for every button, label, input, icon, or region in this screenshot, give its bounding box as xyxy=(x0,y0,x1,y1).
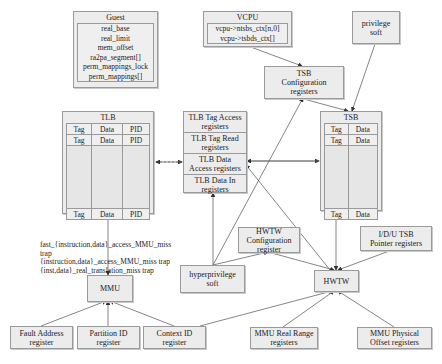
tlb-cell xyxy=(123,146,150,209)
idu-tsb-pointer-registers-node: I/D/U TSB Pointer registers xyxy=(360,226,432,251)
tlb-cell: Data xyxy=(91,209,122,220)
tlb-table: TLB TagDataPID TagDataPID TagDataPID xyxy=(62,111,154,214)
tsb-cell: Data xyxy=(348,124,377,135)
node-label: registers xyxy=(270,338,297,347)
tlb-tag-read-registers: TLB Tag Readregisters xyxy=(184,133,246,154)
guest-field: real_limit xyxy=(78,34,153,44)
fault-address-register-node: Fault Address register xyxy=(10,326,73,349)
tlb-tag-access-registers: TLB Tag Accessregisters xyxy=(184,112,246,133)
tlb-data-access-registers: TLB DataAccess registers xyxy=(184,154,246,175)
trap-list: fast_{instruction,data}_access_MMU_miss … xyxy=(40,241,240,275)
node-label: I/D/U TSB xyxy=(378,230,413,239)
vcpu-field: vcpu->ntsbs_ctx[n,0] xyxy=(208,24,287,34)
tsb-table: TSB TagData TagData TagData xyxy=(320,111,382,211)
node-label: MMU Physical xyxy=(370,329,419,338)
tlb-cell: Data xyxy=(91,124,122,135)
node-label: Offset registers xyxy=(370,338,419,347)
node-label: register xyxy=(257,245,281,254)
vcpu-title: VCPU xyxy=(204,12,291,23)
tsb-entries: TagData TagData TagData xyxy=(324,123,378,220)
guest-struct: Guest real_base real_limit mem_offset ra… xyxy=(73,11,158,88)
tsb-title: TSB xyxy=(321,112,381,123)
tlb-cell: PID xyxy=(123,124,150,135)
tsb-cell: Data xyxy=(348,135,377,146)
privilege-soft-node: privilege soft xyxy=(352,11,400,44)
node-label: soft xyxy=(207,279,219,288)
node-label: HWTW xyxy=(324,277,350,286)
node-label: Partition ID xyxy=(90,329,128,338)
partition-id-register-node: Partition ID register xyxy=(77,326,140,349)
vcpu-struct: VCPU vcpu->ntsbs_ctx[n,0] vcpu->tsbds_ct… xyxy=(203,11,292,47)
table-row: TagDataPID xyxy=(67,209,150,220)
table-row: TagData xyxy=(325,209,378,220)
table-row-ellipsis xyxy=(67,146,150,209)
node-label: registers xyxy=(290,87,317,96)
tlb-cell: PID xyxy=(123,135,150,146)
node-label: register xyxy=(97,338,121,347)
table-row-ellipsis xyxy=(325,146,378,209)
node-label: HWTW xyxy=(256,227,282,236)
guest-field: real_base xyxy=(78,24,153,34)
table-row: TagDataPID xyxy=(67,135,150,146)
tlb-cell: Tag xyxy=(67,209,92,220)
node-label: TSB xyxy=(297,69,312,78)
tsb-cell: Tag xyxy=(325,209,349,220)
hwtw-node: HWTW xyxy=(314,270,359,292)
trap-label: {inst,data}_real_translation_miss trap xyxy=(40,267,240,276)
trap-label: fast_{instruction,data}_access_MMU_miss xyxy=(40,241,240,250)
guest-field: perm_mappings_lock xyxy=(78,62,153,72)
tlb-register-stack: TLB Tag Accessregisters TLB Tag Readregi… xyxy=(183,111,247,193)
node-label: register xyxy=(30,338,54,347)
node-label: privilege xyxy=(362,19,390,28)
tlb-cell: Tag xyxy=(67,124,92,135)
node-label: soft xyxy=(370,28,382,37)
guest-field: mem_offset xyxy=(78,43,153,53)
guest-title: Guest xyxy=(74,12,157,23)
tsb-cell xyxy=(348,146,377,209)
guest-field: perm_mappings[] xyxy=(78,72,153,82)
node-label: Context ID xyxy=(157,329,193,338)
mmu-physical-offset-registers-node: MMU Physical Offset registers xyxy=(357,327,432,349)
tlb-cell: PID xyxy=(123,209,150,220)
mmu-node: MMU xyxy=(87,275,133,302)
node-label: register xyxy=(163,338,187,347)
tsb-cell: Tag xyxy=(325,124,349,135)
tsb-cell: Tag xyxy=(325,135,349,146)
node-label: Configuration xyxy=(247,236,292,245)
context-id-register-node: Context ID register xyxy=(143,326,206,349)
tlb-cell xyxy=(67,146,92,209)
guest-fields: real_base real_limit mem_offset ra2pa_se… xyxy=(77,23,154,82)
tlb-data-in-registers: TLB Data Inregisters xyxy=(184,175,246,195)
tsb-cell xyxy=(325,146,349,209)
vcpu-field: vcpu->tsbds_ctx[] xyxy=(208,34,287,44)
table-row: TagData xyxy=(325,124,378,135)
node-label: MMU Real Range xyxy=(254,329,313,338)
tlb-cell xyxy=(91,146,122,209)
table-row: TagData xyxy=(325,135,378,146)
tsb-configuration-registers-node: TSB Configuration registers xyxy=(264,66,344,99)
hwtw-configuration-register-node: HWTW Configuration register xyxy=(238,227,300,253)
guest-field: ra2pa_segment[] xyxy=(78,53,153,63)
tlb-title: TLB xyxy=(63,112,153,123)
node-label: Fault Address xyxy=(19,329,63,338)
tlb-entries: TagDataPID TagDataPID TagDataPID xyxy=(66,123,150,220)
tlb-cell: Data xyxy=(91,135,122,146)
tsb-cell: Data xyxy=(348,209,377,220)
table-row: TagDataPID xyxy=(67,124,150,135)
node-label: Pointer registers xyxy=(370,239,422,248)
tlb-cell: Tag xyxy=(67,135,92,146)
vcpu-fields: vcpu->ntsbs_ctx[n,0] vcpu->tsbds_ctx[] xyxy=(207,23,288,44)
node-label: Configuration xyxy=(282,78,327,87)
node-label: MMU xyxy=(100,284,120,293)
mmu-real-range-registers-node: MMU Real Range registers xyxy=(250,327,318,349)
